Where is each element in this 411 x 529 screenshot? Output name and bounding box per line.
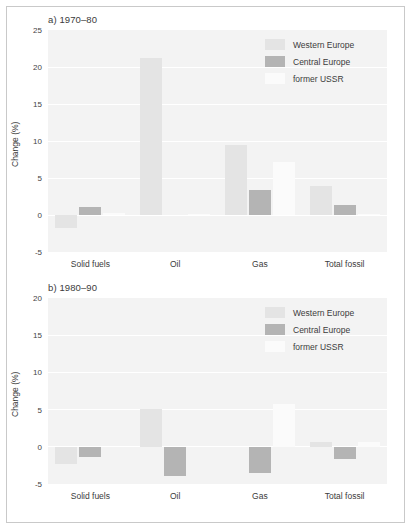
bar [103,213,125,215]
panel-b-title: b) 1980–90 [48,282,97,293]
bar [358,214,380,215]
legend-swatch-icon [265,307,285,318]
bar [55,215,77,228]
legend-label: former USSR [293,74,344,84]
y-tick-label: 0 [12,211,42,220]
x-tick-label: Gas [252,491,268,501]
bar [358,442,380,447]
bar [334,205,356,215]
legend-label: Western Europe [293,308,354,318]
legend-label: Central Europe [293,57,350,67]
x-tick-label: Oil [170,491,180,501]
bar [225,145,247,215]
x-tick-label: Oil [170,259,180,269]
y-axis-title: Change (%) [10,122,20,167]
x-tick-label: Total fossil [325,259,365,269]
y-axis-title: Change (%) [10,372,20,417]
legend-item: Central Europe [265,323,350,336]
x-tick-label: Gas [252,259,268,269]
legend-item: Central Europe [265,55,350,68]
bar [310,442,332,447]
y-tick-label: 20 [12,294,42,303]
legend-label: Western Europe [293,40,354,50]
x-tick-label: Total fossil [325,491,365,501]
y-tick-label: 5 [12,174,42,183]
legend-swatch-icon [265,341,285,352]
bar [79,207,101,215]
y-tick-label: 0 [12,442,42,451]
legend-swatch-icon [265,73,285,84]
x-tick-label: Solid fuels [71,491,110,501]
bar [249,190,271,215]
y-tick-label: 20 [12,63,42,72]
figure-root: a) 1970–80 2520151050-5Change (%)Solid f… [0,0,411,529]
legend-swatch-icon [265,56,285,67]
bar [79,447,101,457]
bar [249,447,271,473]
y-tick-label: 15 [12,100,42,109]
x-tick-label: Solid fuels [71,259,110,269]
y-tick-label: -5 [12,248,42,257]
legend-item: former USSR [265,340,344,353]
bar [55,447,77,464]
bar [273,404,295,447]
bar [188,214,210,215]
legend-label: Central Europe [293,325,350,335]
bar [334,447,356,460]
legend-label: former USSR [293,342,344,352]
bar [310,186,332,215]
gridline [48,409,387,410]
gridline [48,178,387,179]
bar [140,409,162,447]
legend-item: Western Europe [265,306,354,319]
chart-panel-b: b) 1980–90 20151050-5Change (%)Solid fue… [0,276,411,526]
gridline [48,104,387,105]
gridline [48,372,387,373]
bar [140,58,162,215]
y-tick-label: -5 [12,480,42,489]
y-tick-label: 25 [12,26,42,35]
gridline [48,141,387,142]
y-tick-label: 15 [12,331,42,340]
chart-panel-a: a) 1970–80 2520151050-5Change (%)Solid f… [0,8,411,276]
bar [273,162,295,215]
legend-swatch-icon [265,324,285,335]
legend-item: former USSR [265,72,344,85]
legend-item: Western Europe [265,38,354,51]
bar [164,447,186,476]
legend-swatch-icon [265,39,285,50]
panel-a-title: a) 1970–80 [48,14,97,25]
